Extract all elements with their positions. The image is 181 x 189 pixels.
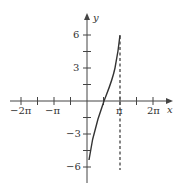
x-tick-label: −π (45, 106, 60, 116)
y-tick-label: 3 (73, 63, 79, 73)
x-axis-label: x (167, 105, 173, 115)
y-axis-arrow-icon (84, 13, 90, 20)
y-axis-label: y (93, 13, 99, 23)
y-tick-label: −6 (66, 162, 81, 172)
x-tick-label: π (116, 106, 123, 116)
function-curve (89, 35, 120, 160)
x-tick-label: 2π (147, 106, 160, 116)
graph (0, 0, 181, 189)
y-tick-label: 6 (73, 30, 79, 40)
x-tick-label: −2π (10, 106, 31, 116)
y-tick-label: −3 (66, 129, 81, 139)
